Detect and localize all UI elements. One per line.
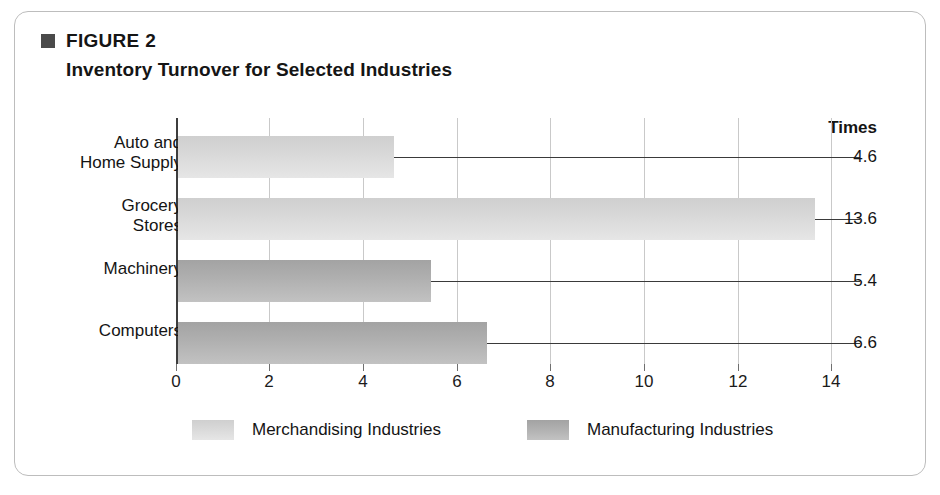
gridline xyxy=(831,118,832,364)
x-tick-label: 14 xyxy=(822,372,841,392)
bar-manufacturing xyxy=(178,260,431,302)
category-label: Computers xyxy=(99,321,182,341)
gridline xyxy=(738,118,739,364)
value-axis-title: Times xyxy=(807,118,877,138)
category-label: Grocery Stores xyxy=(122,196,182,236)
x-axis-tick xyxy=(644,364,645,371)
value-label: 4.6 xyxy=(835,147,877,167)
value-leader-line xyxy=(487,343,860,344)
x-tick-label: 0 xyxy=(171,372,180,392)
bar-merchandising xyxy=(178,136,394,178)
x-tick-label: 10 xyxy=(635,372,654,392)
value-label: 13.6 xyxy=(835,209,877,229)
x-tick-label: 4 xyxy=(358,372,367,392)
bar-merchandising xyxy=(178,198,815,240)
category-label: Machinery xyxy=(104,259,182,279)
legend-item-manufacturing: Manufacturing Industries xyxy=(527,420,773,440)
category-label: Auto and Home Supply xyxy=(80,133,182,173)
x-axis-tick xyxy=(738,364,739,371)
value-leader-line xyxy=(431,281,860,282)
value-label: 6.6 xyxy=(835,333,877,353)
figure-frame: FIGURE 2 Inventory Turnover for Selected… xyxy=(14,11,926,476)
x-axis-tick xyxy=(363,364,364,371)
x-axis-tick xyxy=(176,364,177,371)
x-axis-tick xyxy=(457,364,458,371)
value-label: 5.4 xyxy=(835,271,877,291)
x-axis-tick xyxy=(831,364,832,371)
legend-label: Merchandising Industries xyxy=(252,420,441,440)
legend-item-merchandising: Merchandising Industries xyxy=(192,420,441,440)
legend-label: Manufacturing Industries xyxy=(587,420,773,440)
chart-legend: Merchandising Industries Manufacturing I… xyxy=(176,420,876,440)
bar-manufacturing xyxy=(178,322,487,364)
x-tick-label: 6 xyxy=(452,372,461,392)
legend-swatch-icon xyxy=(527,420,569,440)
x-axis-tick xyxy=(550,364,551,371)
gridline xyxy=(550,118,551,364)
chart-plot-area: Times 0 2 4 6 8 10 12 14 Auto and Home S… xyxy=(15,12,926,476)
gridline xyxy=(644,118,645,364)
x-tick-label: 8 xyxy=(545,372,554,392)
value-leader-line xyxy=(394,157,860,158)
x-tick-label: 2 xyxy=(264,372,273,392)
x-axis-tick xyxy=(269,364,270,371)
x-tick-label: 12 xyxy=(729,372,748,392)
legend-swatch-icon xyxy=(192,420,234,440)
